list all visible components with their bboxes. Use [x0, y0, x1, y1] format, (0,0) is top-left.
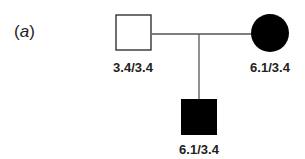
mother-genotype: 6.1/3.4: [240, 60, 300, 75]
father-genotype: 3.4/3.4: [103, 60, 163, 75]
child-genotype: 6.1/3.4: [169, 142, 229, 157]
child-affected-male-square: [181, 99, 217, 135]
pedigree-chart: [0, 0, 305, 159]
mother-affected-female-circle: [251, 14, 289, 52]
father-unaffected-male-square: [116, 15, 151, 50]
